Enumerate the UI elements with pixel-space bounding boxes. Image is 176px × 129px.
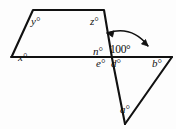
angle-label-e: e°	[96, 58, 105, 69]
angle-label-100: 100°	[110, 44, 130, 56]
geometry-figure: y° z° x° n° 100° e° d° b° a°	[0, 0, 176, 129]
angle-label-x: x°	[18, 52, 27, 63]
angle-label-n: n°	[93, 46, 103, 57]
angle-label-d: d°	[111, 58, 121, 69]
angle-label-z: z°	[90, 16, 98, 27]
angle-label-b: b°	[152, 58, 162, 69]
angle-label-a: a°	[120, 104, 130, 115]
angle-label-y: y°	[31, 16, 40, 27]
triangle-right-side	[125, 57, 172, 124]
figure-canvas	[0, 0, 176, 129]
